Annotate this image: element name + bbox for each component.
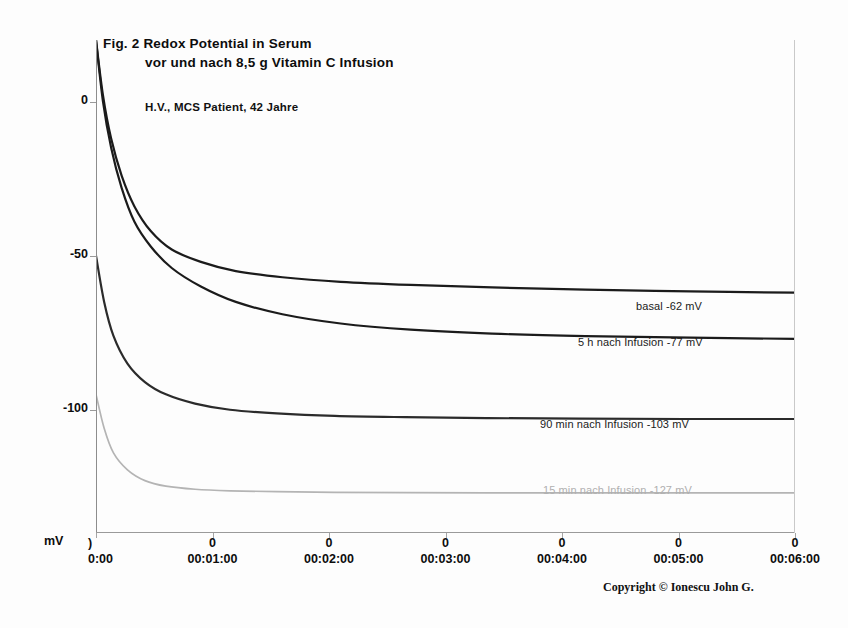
x-tick-secondary-label: 0 [619, 536, 739, 551]
x-tick-secondary-label: 0 [386, 536, 506, 551]
series-line [96, 40, 795, 339]
series-annotation-label: 15 min nach Infusion -127 mV [543, 484, 692, 496]
plot-area [96, 40, 795, 533]
y-tick-label: 0 [40, 93, 88, 107]
figure-root: Fig. 2 Redox Potential in Serum vor und … [0, 0, 848, 628]
x-tick-group: 000:04:00 [502, 536, 622, 567]
x-tick-label: 00:06:00 [735, 551, 848, 567]
x-tick-secondary-label: 0 [269, 536, 389, 551]
x-tick-group: 000:06:00 [735, 536, 848, 567]
x-tick-label: 00:04:00 [502, 551, 622, 567]
x-tick-mark [562, 533, 563, 538]
series-annotation-label: basal -62 mV [636, 300, 702, 312]
x-tick-secondary-label: ) [36, 536, 156, 551]
x-tick-mark [96, 533, 97, 538]
x-tick-secondary-label: 0 [735, 536, 848, 551]
x-tick-group: 000:03:00 [386, 536, 506, 567]
series-line [96, 394, 795, 493]
x-tick-label: 0:00 [36, 551, 156, 567]
series-line [96, 40, 795, 293]
x-tick-label: 00:03:00 [386, 551, 506, 567]
x-tick-mark [446, 533, 447, 538]
x-tick-secondary-label: 0 [153, 536, 273, 551]
x-tick-mark [213, 533, 214, 538]
x-tick-group: )0:00 [36, 536, 156, 567]
x-tick-mark [329, 533, 330, 538]
copyright-notice: Copyright © Ionescu John G. [603, 580, 754, 595]
x-tick-group: 000:02:00 [269, 536, 389, 567]
y-tick-label: -100 [40, 401, 88, 415]
x-tick-group: 000:01:00 [153, 536, 273, 567]
series-canvas [96, 40, 795, 533]
x-tick-label: 00:02:00 [269, 551, 389, 567]
x-tick-label: 00:01:00 [153, 551, 273, 567]
y-tick-label: -50 [40, 247, 88, 261]
x-tick-mark [795, 533, 796, 538]
x-tick-group: 000:05:00 [619, 536, 739, 567]
series-annotation-label: 5 h nach Infusion -77 mV [578, 336, 703, 348]
plot-right-border [794, 40, 795, 533]
x-tick-label: 00:05:00 [619, 551, 739, 567]
x-tick-secondary-label: 0 [502, 536, 622, 551]
series-annotation-label: 90 min nach Infusion -103 mV [540, 418, 689, 430]
y-axis-line [96, 40, 97, 533]
x-tick-mark [679, 533, 680, 538]
